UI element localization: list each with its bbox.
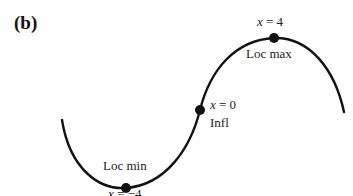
infl-desc-label: Infl [210, 115, 229, 131]
max-x-label: x = 4 [257, 14, 283, 30]
infl-x-label: x = 0 [210, 97, 236, 113]
inflection-dot [195, 105, 205, 115]
max-desc-label: Loc max [246, 46, 292, 62]
curve-diagram [0, 0, 353, 196]
min-desc-label: Loc min [103, 158, 147, 174]
local-max-dot [269, 33, 279, 43]
min-x-label: x = −4 [108, 186, 141, 196]
